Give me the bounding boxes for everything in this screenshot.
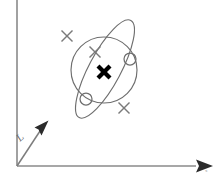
marker-o-1: [124, 53, 136, 65]
marker-x-2: [90, 47, 101, 58]
horizontal-axis-corner-mark: x: [205, 168, 208, 173]
query-point-marker: [98, 66, 110, 78]
projection-axis-arrow-head-icon: [35, 121, 49, 136]
data-markers-group: [62, 31, 137, 114]
marker-x-3: [119, 103, 130, 114]
labels-group: L: [13, 130, 26, 144]
figure-root: x: [0, 0, 219, 173]
projection-axis-label: L: [13, 130, 26, 144]
marker-x-1: [62, 31, 73, 42]
marker-o-2: [80, 93, 92, 105]
axis-group: x: [17, 0, 213, 173]
diagram-canvas: x: [0, 0, 219, 173]
